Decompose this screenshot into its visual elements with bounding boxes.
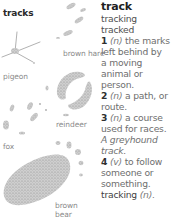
brown-hare-footprint-icon bbox=[56, 2, 86, 39]
definition-text: a moving bbox=[101, 57, 175, 68]
dictionary-entry: track tracking tracked 1 (n) the marks l… bbox=[101, 0, 175, 200]
sense-1: 1 (n) the marks bbox=[101, 35, 175, 46]
derivative-word: tracking bbox=[101, 189, 137, 200]
tracks-illustration bbox=[0, 0, 100, 224]
part-of-speech: (n) bbox=[110, 35, 122, 46]
sense-number: 3 bbox=[101, 112, 107, 123]
inflection-ed: tracked bbox=[101, 24, 175, 35]
part-of-speech: (n). bbox=[140, 189, 155, 200]
definition-text: something. bbox=[101, 178, 175, 189]
sense-number: 1 bbox=[101, 35, 107, 46]
headword: track bbox=[101, 1, 175, 13]
sense-number: 4 bbox=[101, 156, 107, 167]
label-brown-hare: brown hare bbox=[63, 49, 104, 58]
derivative: tracking (n). bbox=[101, 189, 175, 200]
example-text: track. bbox=[101, 145, 175, 156]
definition-text: to follow bbox=[125, 156, 162, 167]
pigeon-footprint-icon bbox=[2, 32, 40, 64]
part-of-speech: (v) bbox=[110, 156, 122, 167]
fox-footprint-icon bbox=[3, 101, 41, 134]
brown-bear-footprint-icon bbox=[4, 141, 84, 205]
sense-2: 2 (n) a path, or bbox=[101, 90, 175, 101]
inflection-ing: tracking bbox=[101, 13, 175, 24]
definition-text: route. bbox=[101, 101, 175, 112]
reindeer-footprint-icon bbox=[45, 72, 92, 117]
part-of-speech: (n) bbox=[110, 90, 122, 101]
label-brown-bear-line2: bear bbox=[55, 210, 72, 219]
part-of-speech: (n) bbox=[110, 112, 122, 123]
definition-text: left behind by bbox=[101, 46, 175, 57]
label-brown-bear-line1: brown bbox=[55, 201, 78, 210]
definition-text: a course bbox=[125, 112, 163, 123]
definition-text: a path, or bbox=[125, 90, 168, 101]
label-pigeon: pigeon bbox=[3, 72, 28, 81]
definition-text: person. bbox=[101, 79, 175, 90]
sense-3: 3 (n) a course bbox=[101, 112, 175, 123]
sense-4: 4 (v) to follow bbox=[101, 156, 175, 167]
example-text: A greyhound bbox=[101, 134, 175, 145]
definition-text: the marks bbox=[125, 35, 170, 46]
sense-number: 2 bbox=[101, 90, 107, 101]
definition-text: animal or bbox=[101, 68, 175, 79]
definition-text: used for races. bbox=[101, 123, 175, 134]
label-reindeer: reindeer bbox=[56, 120, 87, 129]
definition-text: someone or bbox=[101, 167, 175, 178]
label-fox: fox bbox=[3, 142, 14, 151]
